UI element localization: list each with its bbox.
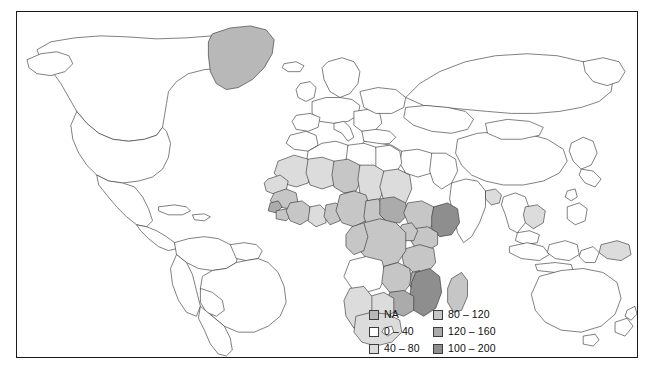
country-cuba bbox=[159, 205, 191, 215]
country-iceland bbox=[282, 62, 304, 72]
legend-label-0-40: 0 – 40 bbox=[384, 326, 414, 337]
map-frame: .land { stroke: #2a2a2a; stroke-width: 0… bbox=[16, 11, 638, 358]
country-indonesia-sumatra bbox=[509, 243, 549, 261]
country-uk-ireland bbox=[296, 82, 316, 102]
country-greenland bbox=[208, 26, 274, 90]
country-russia bbox=[406, 54, 613, 114]
legend-swatch-100-200 bbox=[433, 344, 443, 354]
country-mongolia bbox=[485, 119, 543, 139]
country-central-america bbox=[137, 225, 177, 251]
legend-swatch-40-80 bbox=[369, 344, 379, 354]
legend-swatch-80-120 bbox=[433, 310, 443, 320]
country-niger bbox=[332, 159, 362, 193]
legend-entry-100-200: 100 – 200 bbox=[433, 340, 509, 357]
country-taiwan bbox=[565, 189, 577, 201]
country-new-zealand-south bbox=[615, 318, 633, 336]
country-italy bbox=[334, 121, 354, 141]
legend-swatch-0-40 bbox=[369, 327, 379, 337]
map-legend: NA 0 – 40 40 – 80 80 – 120 120 – 160 100… bbox=[369, 306, 509, 358]
country-scandinavia bbox=[322, 58, 360, 98]
legend-entry-na: NA bbox=[369, 306, 433, 323]
legend-entry-120-160: 120 – 160 bbox=[433, 323, 509, 340]
country-philippines bbox=[567, 203, 587, 225]
legend-entry-0-40: 0 – 40 bbox=[369, 323, 433, 340]
country-kazakhstan bbox=[404, 105, 474, 133]
layer-south-america bbox=[171, 237, 287, 356]
layer-europe bbox=[208, 26, 405, 141]
country-cote-divoire bbox=[286, 201, 310, 225]
legend-label-100-200: 100 – 200 bbox=[448, 343, 496, 354]
country-japan-south bbox=[579, 169, 601, 187]
country-australia bbox=[531, 269, 621, 333]
country-tasmania bbox=[583, 334, 599, 346]
legend-entry-40-80: 40 – 80 bbox=[369, 340, 433, 357]
legend-label-120-160: 120 – 160 bbox=[448, 326, 496, 337]
country-angola bbox=[344, 257, 386, 293]
country-iberia bbox=[292, 113, 320, 131]
country-ghana bbox=[308, 205, 326, 227]
country-cambodia-vietnam bbox=[523, 205, 545, 229]
legend-label-na: NA bbox=[384, 309, 399, 320]
legend-label-40-80: 40 – 80 bbox=[384, 343, 420, 354]
world-map-figure: .land { stroke: #2a2a2a; stroke-width: 0… bbox=[0, 0, 658, 380]
country-bangladesh bbox=[485, 189, 501, 205]
country-borneo bbox=[547, 241, 579, 261]
country-korea-japan bbox=[569, 137, 597, 169]
legend-swatch-120-160 bbox=[433, 327, 443, 337]
country-zambia bbox=[382, 263, 412, 293]
world-map-svg: .land { stroke: #2a2a2a; stroke-width: 0… bbox=[17, 12, 637, 357]
country-hispaniola bbox=[192, 214, 210, 221]
country-sulawesi bbox=[579, 247, 599, 263]
layer-oceania bbox=[531, 269, 637, 347]
legend-label-80-120: 80 – 120 bbox=[448, 309, 490, 320]
legend-swatch-na bbox=[369, 310, 379, 320]
country-papua-new-guinea bbox=[599, 241, 631, 261]
legend-entry-80-120: 80 – 120 bbox=[433, 306, 509, 323]
